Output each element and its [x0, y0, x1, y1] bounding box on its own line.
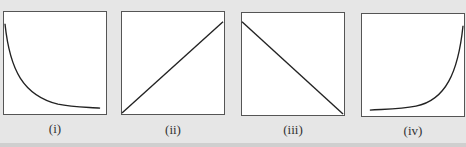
- panel-iii: [241, 12, 345, 116]
- decreasing-line-graph: [242, 13, 344, 115]
- panel-iv: [361, 13, 465, 117]
- increasing-line-graph: [122, 12, 224, 114]
- panel-label-ii: (ii): [121, 122, 225, 138]
- panel-ii: [121, 11, 225, 115]
- panel-label-i: (i): [3, 121, 107, 137]
- bottom-band: [0, 143, 466, 147]
- decreasing-curve-graph: [4, 12, 106, 114]
- panel-label-iv: (iv): [361, 123, 465, 139]
- panel-label-iii: (iii): [241, 122, 345, 138]
- increasing-curve-graph: [362, 14, 464, 116]
- panel-i: [3, 11, 107, 115]
